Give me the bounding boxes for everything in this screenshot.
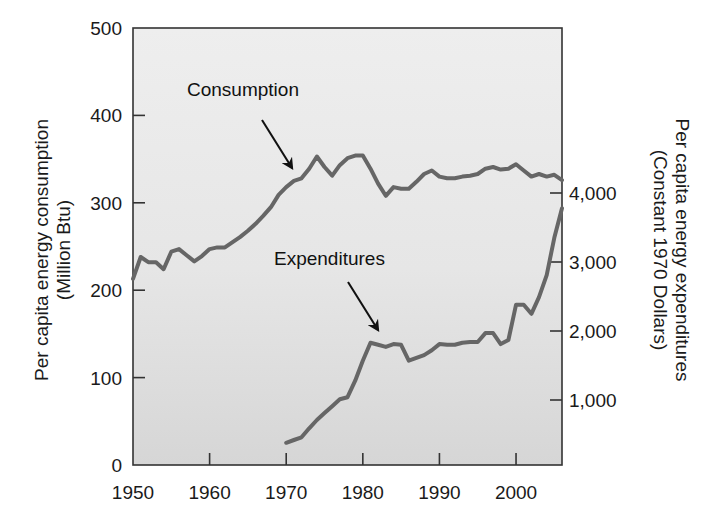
x-tick-label: 1950 xyxy=(112,482,154,503)
right-tick-label: 2,000 xyxy=(569,321,617,342)
x-tick-label: 2000 xyxy=(495,482,537,503)
left-tick-label: 300 xyxy=(90,193,122,214)
left-tick-label: 100 xyxy=(90,368,122,389)
right-tick-label: 4,000 xyxy=(569,183,617,204)
x-tick-label: 1980 xyxy=(342,482,384,503)
right-axis-title: Per capita energy expenditures (Constant… xyxy=(650,119,693,382)
consumption-label: Consumption xyxy=(187,79,299,100)
x-tick-label: 1990 xyxy=(418,482,460,503)
dual-axis-line-chart: 0100200300400500 1,0002,0003,0004,000 19… xyxy=(0,0,704,531)
left-axis-title-line-1: Per capita energy consumption xyxy=(31,119,52,381)
right-tick-label: 3,000 xyxy=(569,252,617,273)
right-tick-label: 1,000 xyxy=(569,390,617,411)
left-axis-title-line-2: (Million Btu) xyxy=(53,200,74,300)
left-tick-label: 400 xyxy=(90,105,122,126)
x-tick-label: 1960 xyxy=(188,482,230,503)
right-axis-title-line-2: (Constant 1970 Dollars) xyxy=(650,150,671,351)
left-tick-label: 0 xyxy=(111,455,122,476)
left-tick-label: 500 xyxy=(90,18,122,39)
x-tick-label: 1970 xyxy=(265,482,307,503)
left-axis-title: Per capita energy consumption (Million B… xyxy=(31,119,74,381)
left-tick-label: 200 xyxy=(90,280,122,301)
expenditures-label: Expenditures xyxy=(274,248,385,269)
right-axis-title-line-1: Per capita energy expenditures xyxy=(672,119,693,382)
